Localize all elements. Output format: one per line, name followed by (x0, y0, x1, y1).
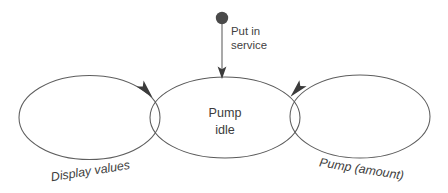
state-label-pump-idle-line1: Pump (209, 106, 242, 120)
transition-label-put-in-service-line1: Put in (231, 25, 260, 37)
arrowhead-icon-display-values (137, 81, 153, 98)
transition-label-put-in-service-line2: service (231, 39, 267, 51)
arrowhead-icon-pump-amount (291, 80, 307, 97)
transition-label-pump-amount: Pump (amount) (318, 155, 405, 182)
state-label-pump-idle-line2: idle (215, 123, 235, 137)
transition-loop-pump-amount[interactable] (290, 75, 430, 158)
transition-label-display-values: Display values (50, 158, 131, 184)
state-diagram-canvas: Pump idle Put in service Display values … (0, 0, 448, 193)
uml-state-machine-diagram: Pump idle Put in service Display values … (0, 0, 448, 193)
initial-state-dot-icon (216, 12, 228, 24)
